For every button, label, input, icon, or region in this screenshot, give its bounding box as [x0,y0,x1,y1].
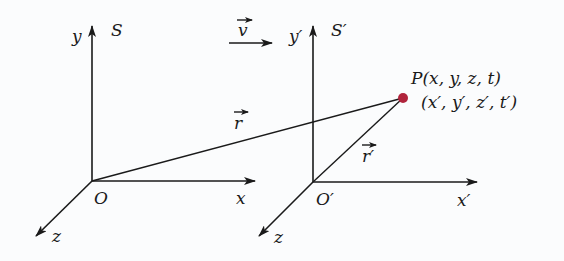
vector-r [92,98,403,181]
velocity-label: v [238,20,248,40]
s-z-label: z [51,226,62,246]
s-prime-z-label: z [273,227,284,247]
s-x-label: x [236,188,246,208]
s-origin-label: O [94,188,108,208]
frame-s: y S O x z [36,20,255,246]
s-prime-z-axis [259,182,313,236]
s-prime-y-label: y′ [288,26,303,46]
velocity-indicator: v [229,20,272,43]
point-p-coords-s: P(x, y, z, t) [410,68,501,88]
r-label: r [234,113,243,133]
s-prime-x-label: x′ [457,190,471,210]
point-p: P(x, y, z, t) (x′, y′, z′, t′) [398,68,517,112]
s-z-axis [36,181,92,236]
position-vectors: r r′ [92,98,403,182]
r-prime-label: r′ [362,146,374,166]
s-prime-origin-label: O′ [316,189,334,209]
s-prime-frame-label: S′ [331,20,347,40]
point-p-marker [398,93,408,103]
reference-frames-diagram: y S O x z v y′ S′ O′ x′ z r r′ P(x, y, z… [0,0,564,261]
point-p-coords-s-prime: (x′, y′, z′, t′) [421,92,517,112]
s-y-label: y [71,26,82,46]
frame-s-prime: y′ S′ O′ x′ z [259,20,477,247]
s-frame-label: S [111,20,123,40]
